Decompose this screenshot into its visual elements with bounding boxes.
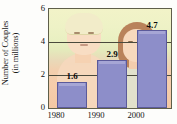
person-illustration-left-mouth (80, 44, 88, 46)
person-illustration-left-neck (75, 49, 91, 63)
y-axis-title-line2: (in millions) (11, 1, 21, 105)
person-illustration-left-eye-left (74, 32, 80, 34)
person-illustration-left-hair (65, 13, 103, 35)
x-tick-1980: 1980 (36, 110, 76, 120)
data-label-2000: 4.7 (135, 20, 169, 30)
y-axis-title: Number of Couples (in millions) (1, 1, 27, 105)
bar-2000 (137, 30, 167, 108)
person-illustration-left-eye-right (88, 32, 94, 34)
x-tick-1990: 1990 (76, 110, 116, 120)
data-label-1980: 1.6 (55, 71, 89, 81)
y-axis-title-line1: Number of Couples (1, 1, 11, 105)
y-axis-ticks: 6 4 2 0 (29, 0, 45, 124)
y-tick-2: 2 (31, 70, 45, 79)
bar-1980 (57, 82, 87, 108)
x-tick-2000: 2000 (116, 110, 156, 120)
y-tick-6: 6 (31, 4, 45, 13)
y-tick-4: 4 (31, 37, 45, 46)
plot-area: 1.6 2.9 4.7 (48, 8, 172, 109)
bar-1990 (97, 60, 127, 108)
data-label-1990: 2.9 (95, 49, 129, 59)
bar-chart: Number of Couples (in millions) 6 4 2 0 … (0, 0, 177, 124)
